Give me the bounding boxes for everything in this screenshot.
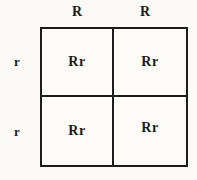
punnett-cell-top-right: Rr — [114, 29, 186, 97]
genotype-label: Rr — [68, 54, 85, 70]
column-allele-label-1: R — [40, 3, 114, 21]
punnett-cell-bottom-left: Rr — [42, 97, 114, 165]
column-allele-label-2: R — [108, 3, 182, 21]
genotype-label: Rr — [141, 120, 158, 136]
punnett-square-diagram: R R r r Rr Rr Rr Rr — [0, 0, 197, 180]
genotype-label: Rr — [68, 123, 85, 139]
punnett-cell-top-left: Rr — [42, 29, 114, 97]
genotype-label: Rr — [141, 54, 158, 70]
punnett-cell-bottom-right: Rr — [114, 97, 186, 165]
punnett-grid: Rr Rr Rr Rr — [40, 27, 188, 167]
row-allele-label-1: r — [5, 54, 29, 70]
row-allele-label-2: r — [5, 124, 29, 140]
